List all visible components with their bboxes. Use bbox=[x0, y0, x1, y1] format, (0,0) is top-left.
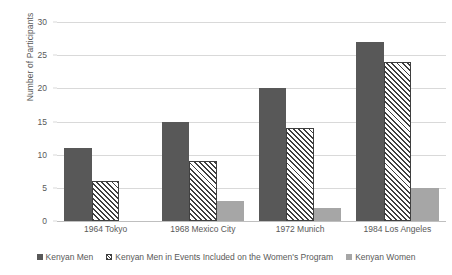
y-tick-label-15: 15 bbox=[38, 117, 47, 127]
x-axis-category-labels: 1964 Tokyo1968 Mexico City1972 Munich198… bbox=[57, 224, 446, 242]
bar bbox=[217, 201, 245, 221]
bar bbox=[189, 161, 217, 221]
bar bbox=[286, 128, 314, 221]
bar bbox=[92, 181, 120, 221]
x-category-label: 1972 Munich bbox=[252, 224, 349, 234]
x-category-label: 1968 Mexico City bbox=[154, 224, 251, 234]
y-tick-label-30: 30 bbox=[38, 17, 47, 27]
bars-layer bbox=[57, 22, 446, 221]
x-category-label: 1964 Tokyo bbox=[57, 224, 154, 234]
x-category-label: 1984 Los Angeles bbox=[349, 224, 446, 234]
y-axis-tick-labels: 051015202530 bbox=[0, 22, 57, 221]
bar bbox=[259, 88, 287, 221]
bar bbox=[384, 62, 412, 221]
bar-chart: Number of Participants 051015202530 1964… bbox=[0, 0, 452, 275]
bar bbox=[314, 208, 342, 221]
y-tick-label-25: 25 bbox=[38, 50, 47, 60]
legend-swatch-icon bbox=[106, 254, 112, 260]
bar bbox=[64, 148, 92, 221]
legend-swatch-icon bbox=[346, 254, 352, 260]
bar bbox=[356, 42, 384, 221]
legend-label: Kenyan Women bbox=[355, 252, 415, 262]
bar bbox=[411, 188, 439, 221]
gridline-0 bbox=[57, 221, 446, 222]
legend-swatch-icon bbox=[37, 254, 43, 260]
legend-item[interactable]: Kenyan Women bbox=[346, 252, 415, 262]
legend-item[interactable]: Kenyan Men in Events Included on the Wom… bbox=[106, 252, 333, 262]
legend-label: Kenyan Men bbox=[46, 252, 94, 262]
legend-item[interactable]: Kenyan Men bbox=[37, 252, 94, 262]
legend-label: Kenyan Men in Events Included on the Wom… bbox=[115, 252, 333, 262]
plot-area bbox=[57, 22, 446, 221]
chart-legend: Kenyan MenKenyan Men in Events Included … bbox=[0, 252, 452, 262]
y-tick-label-20: 20 bbox=[38, 83, 47, 93]
y-tick-label-10: 10 bbox=[38, 150, 47, 160]
y-tick-label-5: 5 bbox=[42, 183, 47, 193]
bar bbox=[162, 122, 190, 222]
y-tick-label-0: 0 bbox=[42, 216, 47, 226]
